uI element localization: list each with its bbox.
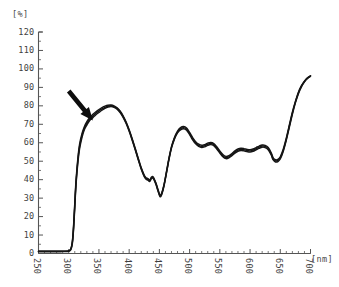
plot-canvas: [0, 0, 339, 287]
x-axis-unit-label: [nm]: [311, 254, 333, 264]
x-tick-label: 400: [123, 258, 133, 274]
x-tick-label: 500: [183, 258, 193, 274]
spectral-transmittance-chart: [%] [nm] 1201101009080706050403020100 25…: [0, 0, 339, 287]
x-tick-label: 650: [274, 258, 284, 274]
y-tick-label: 10: [13, 230, 35, 240]
x-tick-label: 600: [244, 258, 254, 274]
y-tick-label: 20: [13, 211, 35, 221]
y-tick-label: 70: [13, 119, 35, 129]
down-right-arrow-icon: [67, 90, 93, 121]
y-axis-unit-label: [%]: [12, 9, 29, 19]
x-tick-label: 350: [92, 258, 102, 274]
y-tick-label: 90: [13, 82, 35, 92]
y-tick-label: 100: [13, 63, 35, 73]
x-tick-label: 250: [32, 258, 42, 274]
arrow-annotation-layer: [67, 90, 93, 121]
y-tick-label: 30: [13, 193, 35, 203]
x-tick-label: 700: [304, 258, 314, 274]
x-tick-label: 550: [213, 258, 223, 274]
y-tick-label: 0: [13, 248, 35, 258]
x-tick-label: 450: [153, 258, 163, 274]
x-tick-label: 300: [62, 258, 72, 274]
y-tick-label: 80: [13, 100, 35, 110]
y-tick-label: 60: [13, 137, 35, 147]
y-tick-label: 50: [13, 156, 35, 166]
y-tick-label: 120: [13, 27, 35, 37]
y-tick-label: 40: [13, 174, 35, 184]
y-tick-label: 110: [13, 45, 35, 55]
